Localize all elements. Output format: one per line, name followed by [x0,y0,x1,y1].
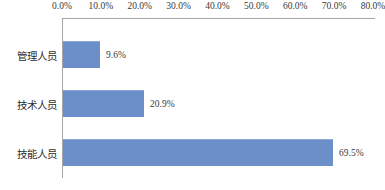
chart-row-0: 管理人员 9.6% [0,41,383,68]
x-tick-label-6: 60.0% [283,1,308,11]
value-label-2: 69.5% [339,148,364,158]
x-tick-label-0: 0.0% [52,1,72,11]
bar-1[interactable] [63,90,144,117]
value-label-1: 20.9% [150,99,175,109]
category-label-1: 技术人员 [17,96,57,111]
chart-row-2: 技能人员 69.5% [0,139,383,166]
x-axis-tick-labels: 0.0% 10.0% 20.0% 30.0% 40.0% 50.0% 60.0%… [0,0,383,16]
x-axis-line [62,18,375,19]
value-label-0: 9.6% [106,50,126,60]
category-label-2: 技能人员 [17,145,57,160]
bar-2[interactable] [63,139,333,166]
chart-row-1: 技术人员 20.9% [0,90,383,117]
x-tick-label-3: 30.0% [166,1,191,11]
x-tick-label-1: 10.0% [89,1,114,11]
bar-0[interactable] [63,41,100,68]
x-tick-label-4: 40.0% [205,1,230,11]
x-tick-label-7: 70.0% [322,1,347,11]
x-tick-label-5: 50.0% [244,1,269,11]
category-label-0: 管理人员 [17,47,57,62]
x-tick-label-2: 20.0% [127,1,152,11]
x-tick-label-8: 80.0% [361,1,385,11]
